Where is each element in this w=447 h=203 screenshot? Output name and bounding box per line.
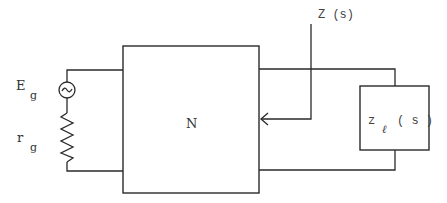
source-resistance-subscript: g [30,142,37,153]
load-label: z [368,115,375,127]
load-top-wire [259,69,395,86]
circuit-diagram: E g r g N Z (s) z ℓ ( s ) [0,0,447,203]
source-voltage-label: E [16,79,26,92]
impedance-indicator [261,24,311,125]
source-voltage-subscript: g [30,90,37,101]
load-subscript: ℓ [382,124,387,135]
source-bottom-wire [67,162,123,171]
source-branch [59,70,123,171]
load-bottom-wire [259,150,395,170]
impedance-label: Z (s) [318,9,354,21]
ac-source-icon [59,82,75,98]
resistor-icon [61,113,73,162]
source-top-wire [67,70,123,82]
circuit-drawing [0,0,447,203]
source-resistance-label: r [17,131,23,144]
load-argument: ( s ) [397,115,433,127]
network-label: N [186,117,197,130]
impedance-pointer-line [261,24,311,119]
